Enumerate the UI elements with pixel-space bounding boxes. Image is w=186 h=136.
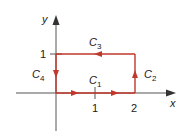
c1-arrow-right-icon-2 xyxy=(111,90,119,96)
label-c3: C3 xyxy=(89,36,102,51)
label-c2: C2 xyxy=(144,68,157,83)
x-tick-label-1: 1 xyxy=(92,102,98,114)
y-axis-arrow-icon xyxy=(53,15,60,25)
x-tick-label-2: 2 xyxy=(131,102,137,114)
c4-arrow-down-icon xyxy=(53,70,59,78)
c3-arrow-left-icon xyxy=(94,51,102,57)
x-axis-arrow-icon xyxy=(166,90,176,97)
c2-arrow-up-icon xyxy=(132,70,138,78)
label-c1: C1 xyxy=(89,74,102,89)
c1-arrow-right-icon xyxy=(71,90,79,96)
x-axis-label: x xyxy=(169,97,176,109)
y-tick-label-1: 1 xyxy=(40,48,46,60)
y-axis-label: y xyxy=(41,13,49,25)
path-diagram: x y 1 2 1 C1 C2 C3 C4 xyxy=(0,0,186,136)
label-c4: C4 xyxy=(32,68,45,83)
